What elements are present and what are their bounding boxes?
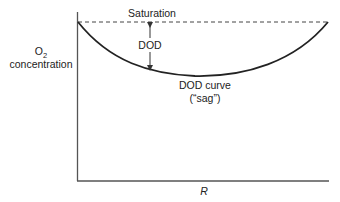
x-axis-label: R	[200, 185, 208, 197]
dod-sag-curve	[78, 22, 328, 76]
y-axis-label-concentration: concentration	[9, 58, 72, 70]
curve-label-line1: DOD curve	[179, 79, 231, 91]
curve-label-line2: (“sag”)	[190, 92, 221, 104]
dod-label: DOD	[138, 39, 162, 51]
oxygen-sag-diagram: Saturation DOD DOD curve (“sag”) O2 conc…	[0, 0, 340, 202]
saturation-label: Saturation	[128, 7, 176, 19]
